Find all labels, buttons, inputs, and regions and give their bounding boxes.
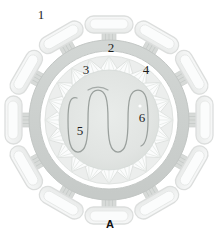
callout-label-3: 3	[83, 63, 90, 76]
coil-terminus-dot	[138, 104, 141, 107]
callout-label-1: 1	[38, 8, 45, 21]
virus-particle-diagram	[0, 0, 219, 236]
callout-label-4: 4	[143, 63, 150, 76]
panel-letter: A	[106, 219, 114, 230]
callout-label-2: 2	[108, 41, 115, 54]
callout-label-5: 5	[77, 124, 84, 137]
figure-panel-a: 1 2 3 4 5 6 A	[0, 0, 219, 236]
callout-label-6: 6	[139, 111, 146, 124]
